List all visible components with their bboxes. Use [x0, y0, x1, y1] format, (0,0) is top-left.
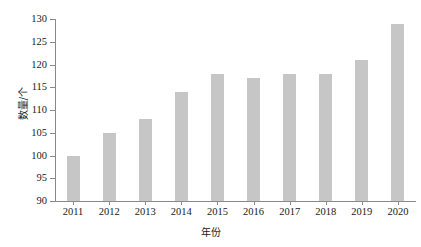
x-tick-label: 2012 [89, 206, 129, 219]
y-tick-label-text: 95 [18, 173, 47, 184]
x-tick-mark [326, 201, 327, 205]
bar [175, 92, 188, 201]
y-tick-label: 130 [18, 14, 47, 24]
x-tick-mark [362, 201, 363, 205]
x-tick-mark [109, 201, 110, 205]
bar [139, 119, 152, 201]
y-tick-label-text: 120 [18, 60, 47, 71]
x-tick-label: 2016 [234, 206, 274, 219]
x-tick-mark [290, 201, 291, 205]
y-tick-mark [50, 42, 55, 43]
y-tick-mark [50, 201, 55, 202]
y-tick-mark [50, 156, 55, 157]
x-tick-label: 2017 [270, 206, 310, 219]
x-tick-label: 2013 [125, 206, 165, 219]
y-tick-mark [50, 110, 55, 111]
y-tick-label: 120 [18, 60, 47, 70]
x-tick-mark [73, 201, 74, 205]
x-tick-mark [398, 201, 399, 205]
x-tick-label: 2014 [161, 206, 201, 219]
x-axis-title: 年份 [0, 224, 421, 239]
y-tick-label: 100 [18, 151, 47, 161]
y-tick-mark [50, 19, 55, 20]
bar [319, 74, 332, 201]
bar [211, 74, 224, 201]
x-tick-mark [217, 201, 218, 205]
bar [283, 74, 296, 201]
x-tick-mark [254, 201, 255, 205]
y-tick-mark [50, 133, 55, 134]
x-tick-mark [181, 201, 182, 205]
y-tick-label-text: 130 [18, 14, 47, 25]
bar [355, 60, 368, 201]
bar-chart: 9095100105110115120125130 20112012201320… [0, 0, 421, 247]
y-tick-mark [50, 87, 55, 88]
y-tick-label-text: 125 [18, 37, 47, 48]
y-tick-label: 90 [18, 196, 47, 206]
y-axis-line [55, 19, 56, 202]
y-axis-title: 数量/个 [15, 74, 30, 134]
bar [391, 24, 404, 201]
y-tick-label: 95 [18, 173, 47, 183]
y-tick-mark [50, 65, 55, 66]
x-tick-label: 2011 [53, 206, 93, 219]
x-tick-mark [145, 201, 146, 205]
y-tick-mark [50, 178, 55, 179]
y-tick-label-text: 90 [18, 196, 47, 207]
x-tick-label: 2019 [342, 206, 382, 219]
x-tick-label: 2015 [197, 206, 237, 219]
x-tick-label: 2020 [378, 206, 418, 219]
y-tick-label: 125 [18, 37, 47, 47]
bar [67, 156, 80, 202]
y-tick-label-text: 100 [18, 151, 47, 162]
x-tick-label: 2018 [306, 206, 346, 219]
bar [103, 133, 116, 201]
bar [247, 78, 260, 201]
